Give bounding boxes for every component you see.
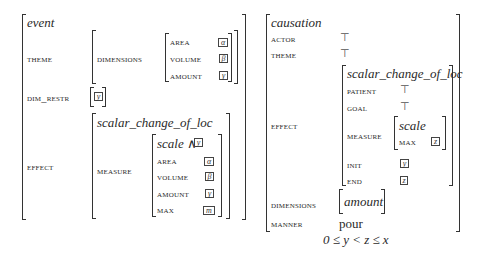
measure-amount-tag: γ xyxy=(205,189,214,198)
measure-close-bracket xyxy=(218,134,222,217)
measure-right-close-bracket xyxy=(442,116,446,150)
measure-area-label: AREA xyxy=(157,156,177,167)
dimensions-right-open-bracket xyxy=(339,189,343,214)
measure-right-scale: scale xyxy=(399,119,426,132)
measure-right-max-tag: z xyxy=(431,137,440,146)
right-avm-open-bracket xyxy=(266,14,270,232)
effect-label-right: EFFECT xyxy=(271,121,297,132)
measure-right-max-label: MAX xyxy=(399,137,416,148)
patient-value: ⊤ xyxy=(400,84,410,95)
actor-label: ACTOR xyxy=(271,34,296,45)
effect-label: EFFECT xyxy=(27,162,53,173)
effect-close-bracket xyxy=(226,113,230,219)
effect-type: scalar_change_of_loc xyxy=(97,116,213,129)
left-avm-close-bracket xyxy=(242,14,246,220)
measure-label: MEASURE xyxy=(97,166,132,177)
dim-area-label: AREA xyxy=(170,37,190,48)
actor-value: ⊤ xyxy=(340,32,350,43)
measure-label-right: MEASURE xyxy=(347,131,382,142)
measure-scale: scale ∧ xyxy=(157,137,196,150)
theme-close-bracket xyxy=(234,30,238,84)
end-label: END xyxy=(347,176,362,187)
measure-volume-label: VOLUME xyxy=(157,172,188,183)
dim-volume-label: VOLUME xyxy=(170,54,201,65)
effect-right-type: scalar_change_of_loc xyxy=(347,67,463,80)
measure-scale-tag: y xyxy=(194,138,203,147)
measure-max-tag: m xyxy=(203,206,215,215)
measure-area-tag: α xyxy=(204,157,214,166)
measure-volume-tag: β xyxy=(205,172,214,181)
dim-restr-label: DIM_RESTR xyxy=(27,93,69,104)
measure-max-label: MAX xyxy=(157,205,174,216)
left-avm-type: event xyxy=(27,16,54,29)
manner-label: MANNER xyxy=(271,219,303,230)
measure-open-bracket xyxy=(152,134,156,217)
goal-label: GOAL xyxy=(347,103,367,114)
init-label: INIT xyxy=(347,160,362,171)
measure-right-open-bracket xyxy=(394,116,398,150)
theme-open-bracket xyxy=(92,30,96,84)
effect-open-bracket xyxy=(92,113,96,219)
right-avm-close-bracket xyxy=(456,14,460,232)
measure-amount-label: AMOUNT xyxy=(157,189,189,200)
effect-right-close-bracket xyxy=(449,65,453,186)
dim-amount-label: AMOUNT xyxy=(170,71,202,82)
left-avm-open-bracket xyxy=(22,14,26,220)
effect-right-open-bracket xyxy=(342,65,346,186)
dimensions-label-right: DIMENSIONS xyxy=(271,200,316,211)
dimensions-open-bracket xyxy=(165,33,169,82)
goal-value: ⊤ xyxy=(400,101,410,112)
dimensions-label: DIMENSIONS xyxy=(97,54,142,65)
theme-label: THEME xyxy=(27,54,52,65)
dim-area-tag: α xyxy=(218,38,228,47)
dim-amount-tag: γ xyxy=(219,71,228,80)
init-tag: y xyxy=(400,159,409,168)
constraint-formula: 0 ≤ y < z ≤ x xyxy=(323,233,389,246)
dimensions-close-bracket xyxy=(228,33,232,82)
theme-value-right: ⊤ xyxy=(340,48,350,59)
dim-restr-tag: y xyxy=(94,92,103,101)
theme-label-right: THEME xyxy=(271,50,296,61)
patient-label: PATIENT xyxy=(347,86,376,97)
manner-value: pour xyxy=(339,217,363,230)
end-tag: z xyxy=(400,176,408,185)
dim-volume-tag: β xyxy=(219,54,228,63)
right-avm-type: causation xyxy=(271,16,322,29)
dimensions-right-value: amount xyxy=(344,195,383,208)
